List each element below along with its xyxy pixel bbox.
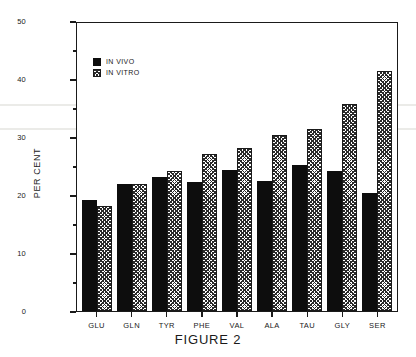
y-tick-label: 40	[6, 76, 26, 84]
bar-ser-in-vitro	[377, 71, 392, 311]
legend-label: IN VIVO	[106, 58, 134, 65]
bar-val-in-vivo	[222, 170, 237, 311]
bar-gly-in-vivo	[327, 171, 342, 311]
y-tick-label: 10	[6, 250, 26, 258]
bar-glu-in-vitro	[97, 206, 112, 311]
legend-item-in-vitro: IN VITRO	[93, 68, 140, 77]
x-tick-label-tyr: TYR	[147, 321, 187, 330]
x-tick	[131, 312, 132, 317]
legend-label: IN VITRO	[106, 69, 140, 76]
bar-glu-in-vivo	[82, 200, 97, 311]
bar-gly-in-vitro	[342, 104, 357, 311]
bar-phe-in-vitro	[202, 154, 217, 311]
x-tick	[166, 312, 167, 317]
hatched-square-icon	[93, 69, 101, 77]
bar-tyr-in-vitro	[167, 171, 182, 311]
bar-gln-in-vitro	[132, 184, 147, 311]
x-tick	[271, 312, 272, 317]
bar-group	[327, 23, 357, 311]
x-tick	[377, 312, 378, 317]
y-axis-title: PER CENT	[32, 128, 42, 218]
y-tick-label: 0	[6, 308, 26, 316]
y-tick-label: 50	[6, 18, 26, 26]
x-tick-label-gln: GLN	[112, 321, 152, 330]
bar-group	[222, 23, 252, 311]
x-tick-label-phe: PHE	[182, 321, 222, 330]
x-tick	[342, 312, 343, 317]
legend-item-in-vivo: IN VIVO	[93, 57, 140, 66]
x-tick	[96, 312, 97, 317]
solid-black-square-icon	[93, 58, 101, 66]
x-tick-label-ala: ALA	[252, 321, 292, 330]
x-tick	[236, 312, 237, 317]
bar-tyr-in-vivo	[152, 177, 167, 311]
x-tick-label-tau: TAU	[287, 321, 327, 330]
x-tick-label-glu: GLU	[77, 321, 117, 330]
bar-group	[257, 23, 287, 311]
bar-phe-in-vivo	[187, 182, 202, 311]
bar-group	[292, 23, 322, 311]
y-tick-label: 30	[6, 134, 26, 142]
bar-group	[362, 23, 392, 311]
bar-group	[187, 23, 217, 311]
figure-caption: FIGURE 2	[0, 332, 416, 347]
bar-ala-in-vitro	[272, 135, 287, 311]
plot-area: IN VIVO IN VITRO	[76, 22, 398, 312]
x-tick-label-ser: SER	[357, 321, 397, 330]
x-tick	[307, 312, 308, 317]
y-tick-label: 20	[6, 192, 26, 200]
x-tick-label-val: VAL	[217, 321, 257, 330]
bar-tau-in-vitro	[307, 129, 322, 311]
bar-val-in-vitro	[237, 148, 252, 311]
bar-ser-in-vivo	[362, 193, 377, 311]
bar-tau-in-vivo	[292, 165, 307, 311]
bar-group	[152, 23, 182, 311]
bar-gln-in-vivo	[117, 184, 132, 311]
legend: IN VIVO IN VITRO	[93, 57, 140, 77]
bar-ala-in-vivo	[257, 181, 272, 311]
x-tick-label-gly: GLY	[322, 321, 362, 330]
figure-2-chart: 01020304050 PER CENT IN VIVO IN VITRO GL…	[0, 0, 416, 357]
x-tick	[201, 312, 202, 317]
